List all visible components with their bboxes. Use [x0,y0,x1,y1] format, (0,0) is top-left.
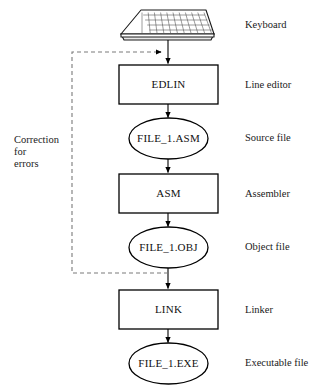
flowchart-canvas: EDLIN FILE_1.ASM ASM FILE_1.OBJ LINK FIL… [0,0,323,390]
side-label-assembler: Assembler [245,188,290,199]
node-exe-file: FILE_1.EXE [129,343,208,384]
side-label-line-editor: Line editor [245,79,292,90]
feedback-label-line3: errors [14,158,39,169]
side-label-keyboard: Keyboard [245,19,287,30]
link-label: LINK [155,303,182,315]
flowchart-diagram: EDLIN FILE_1.ASM ASM FILE_1.OBJ LINK FIL… [0,0,323,390]
edlin-label: EDLIN [152,78,186,90]
node-asm: ASM [119,174,218,213]
node-link: LINK [119,290,218,329]
node-asm-file: FILE_1.ASM [129,118,208,159]
side-label-linker: Linker [245,304,273,315]
asm-label: ASM [156,187,180,199]
feedback-label-line1: Correction [14,134,60,145]
feedback-loop-label: Correction for errors [14,134,60,169]
obj-file-label: FILE_1.OBJ [139,241,198,253]
node-edlin: EDLIN [119,65,218,104]
side-label-source-file: Source file [245,132,291,143]
node-obj-file: FILE_1.OBJ [129,227,208,268]
keyboard-icon [121,10,214,40]
exe-file-label: FILE_1.EXE [138,357,198,369]
asm-file-label: FILE_1.ASM [137,132,200,144]
side-label-object-file: Object file [245,241,290,252]
side-label-executable-file: Executable file [245,357,309,368]
feedback-label-line2: for [14,146,27,157]
